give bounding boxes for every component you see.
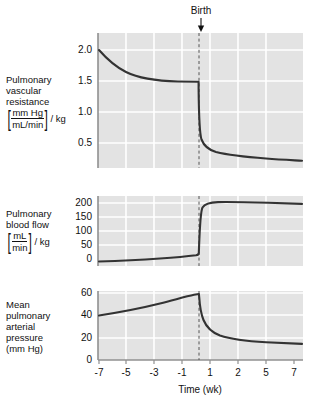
- plots-canvas: [0, 0, 311, 408]
- plot-area-panel-1: [98, 33, 303, 168]
- plot-area-panel-2: [98, 196, 303, 266]
- panel-1-plot-background: [98, 33, 303, 168]
- physiology-figure: Birth Pulmonary vascular resistance [ mm…: [0, 0, 311, 408]
- plot-area-panel-3: [98, 291, 303, 360]
